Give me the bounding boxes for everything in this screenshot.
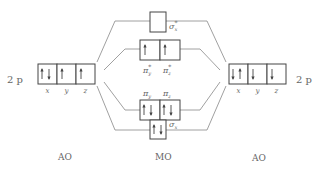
orbital-box bbox=[140, 40, 160, 60]
mo-pi-box bbox=[160, 100, 180, 120]
svg-text:πy: πy bbox=[142, 89, 151, 100]
left-ao-x-box bbox=[38, 64, 57, 84]
svg-text:π*y: π*y bbox=[142, 63, 151, 77]
left-axis-label: y bbox=[64, 87, 70, 95]
left-axis-label: x bbox=[46, 87, 50, 95]
left-2p-label: 2 p bbox=[7, 74, 23, 85]
orbital-boxes: xyzxyzσ*xπ*yπ*zπyπzσx bbox=[38, 12, 286, 139]
mo-pi-star-box bbox=[160, 40, 180, 60]
orbital-box bbox=[160, 40, 180, 60]
right-ao-label: AO bbox=[251, 153, 266, 163]
correlation-line bbox=[104, 82, 140, 110]
orbital-box bbox=[248, 64, 267, 84]
left-axis-label: z bbox=[83, 87, 88, 95]
orbital-box bbox=[38, 64, 57, 84]
orbital-box bbox=[140, 100, 160, 120]
orbital-box bbox=[57, 64, 76, 84]
svg-text:π*z: π*z bbox=[162, 63, 171, 76]
orbital-box bbox=[150, 120, 166, 139]
orbital-box bbox=[229, 64, 248, 84]
svg-text:σx: σx bbox=[169, 120, 177, 130]
right-axis-label: z bbox=[274, 87, 279, 95]
left-ao-z-box bbox=[76, 64, 95, 84]
correlation-line bbox=[180, 82, 220, 110]
right-2p-label: 2 p bbox=[296, 74, 312, 85]
right-axis-label: x bbox=[237, 87, 241, 95]
mo-orbital-label: πy bbox=[142, 89, 151, 100]
svg-text:πz: πz bbox=[162, 89, 171, 99]
right-ao-y-box bbox=[248, 64, 267, 84]
mo-orbital-label: π*y bbox=[142, 63, 151, 77]
mo-diagram: xyzxyzσ*xπ*yπ*zπyπzσx 2 p 2 p AO MO AO bbox=[0, 0, 319, 171]
mo-pi-box bbox=[140, 100, 160, 120]
mo-sigma-star-x-box bbox=[150, 12, 166, 32]
mo-sigma-x-box bbox=[150, 120, 166, 139]
correlation-line bbox=[104, 49, 140, 70]
left-ao-label: AO bbox=[57, 152, 72, 162]
mo-label: MO bbox=[155, 152, 172, 162]
mo-orbital-label: πz bbox=[162, 89, 171, 99]
mo-orbital-label: σx bbox=[169, 120, 177, 130]
orbital-box bbox=[160, 100, 180, 120]
correlation-line bbox=[180, 49, 220, 70]
orbital-box bbox=[76, 64, 95, 84]
left-ao-y-box bbox=[57, 64, 76, 84]
right-axis-label: y bbox=[255, 87, 261, 95]
orbital-box bbox=[150, 12, 166, 32]
mo-orbital-label: π*z bbox=[162, 63, 171, 76]
mo-pi-star-box bbox=[140, 40, 160, 60]
right-ao-x-box bbox=[229, 64, 248, 84]
orbital-box bbox=[267, 64, 286, 84]
right-ao-z-box bbox=[267, 64, 286, 84]
